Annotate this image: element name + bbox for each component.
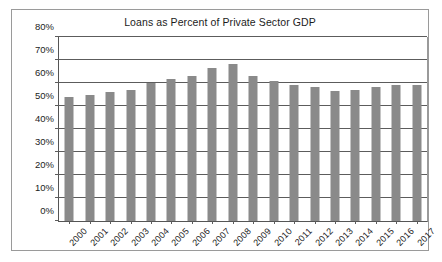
x-tick-mark [417, 221, 418, 224]
y-tick-label: 80% [35, 21, 54, 32]
bar [187, 76, 196, 221]
y-tick-label: 20% [35, 159, 54, 170]
x-tick-mark [355, 221, 356, 224]
bar [331, 91, 340, 221]
x-tick-mark [192, 221, 193, 224]
bar [269, 81, 278, 221]
y-tick-label: 50% [35, 90, 54, 101]
bar [126, 90, 135, 221]
bar [65, 97, 74, 221]
x-tick-label: 2011 [293, 226, 314, 247]
x-tick-label: 2007 [211, 226, 233, 248]
bar [167, 79, 176, 221]
x-tick-mark [315, 221, 316, 224]
x-tick-label: 2015 [374, 226, 396, 248]
x-tick-mark [212, 221, 213, 224]
x-tick-mark [376, 221, 377, 224]
y-tick-label: 10% [35, 182, 54, 193]
y-tick-label: 30% [35, 136, 54, 147]
bar [310, 87, 319, 221]
bars-group [59, 37, 427, 221]
x-tick-label: 2002 [108, 226, 130, 248]
chart-title: Loans as Percent of Private Sector GDP [12, 16, 428, 28]
plot-area: 0%10%20%30%40%50%60%70%80% 2000200120022… [58, 37, 428, 222]
x-tick-mark [90, 221, 91, 224]
x-tick-label: 2003 [129, 226, 151, 248]
x-tick-mark [274, 221, 275, 224]
y-tick-label: 40% [35, 113, 54, 124]
x-tick-label: 2006 [190, 226, 212, 248]
x-tick-label: 2008 [231, 226, 253, 248]
bar [371, 87, 380, 221]
x-tick-mark [253, 221, 254, 224]
bar [228, 64, 237, 221]
y-tick-label: 0% [40, 205, 54, 216]
x-tick-mark [110, 221, 111, 224]
x-tick-mark [233, 221, 234, 224]
x-tick-label: 2016 [395, 226, 417, 248]
x-tick-label: 2012 [313, 226, 335, 248]
x-tick-label: 2009 [251, 226, 273, 248]
x-tick-label: 2005 [170, 226, 192, 248]
x-tick-label: 2014 [354, 226, 376, 248]
x-tick-mark [131, 221, 132, 224]
bar [351, 90, 360, 221]
bar [147, 83, 156, 221]
y-tick-label: 70% [35, 44, 54, 55]
x-tick-mark [396, 221, 397, 224]
bar [412, 85, 421, 221]
chart-frame: Loans as Percent of Private Sector GDP 0… [11, 9, 429, 251]
x-tick-label: 2010 [272, 226, 294, 248]
bar [106, 92, 115, 221]
x-tick-label: 2017 [415, 226, 437, 248]
x-tick-label: 2000 [67, 226, 89, 248]
y-tick-label: 60% [35, 67, 54, 78]
x-tick-label: 2004 [149, 226, 171, 248]
x-tick-mark [69, 221, 70, 224]
x-tick-mark [335, 221, 336, 224]
bar [249, 76, 258, 221]
x-tick-mark [294, 221, 295, 224]
x-tick-label: 2001 [88, 226, 110, 248]
bar [392, 85, 401, 221]
x-tick-mark [171, 221, 172, 224]
bar [290, 85, 299, 221]
x-tick-label: 2013 [333, 226, 355, 248]
x-tick-mark [151, 221, 152, 224]
bar [208, 68, 217, 221]
bar [85, 95, 94, 221]
